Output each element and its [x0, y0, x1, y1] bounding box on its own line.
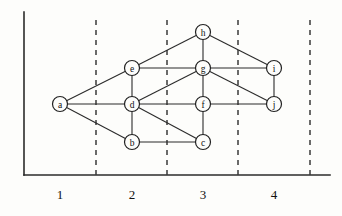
graph-node-label-e: e	[130, 64, 134, 74]
graph-node-e[interactable]: e	[125, 61, 140, 76]
graph-node-label-b: b	[130, 138, 135, 148]
graph-node-b[interactable]: b	[125, 135, 140, 150]
graph-node-d[interactable]: d	[125, 97, 140, 112]
graph-edges	[60, 32, 274, 142]
graph-node-i[interactable]: i	[267, 61, 282, 76]
graph-edge-d-c	[132, 104, 203, 142]
graph-node-a[interactable]: a	[53, 97, 68, 112]
x-tick-label-3: 3	[200, 187, 207, 202]
x-tick-label-2: 2	[129, 187, 136, 202]
graph-node-c[interactable]: c	[196, 135, 211, 150]
x-axis-tick-labels: 1234	[57, 187, 278, 202]
graph-node-j[interactable]: j	[267, 97, 282, 112]
graph-node-g[interactable]: g	[196, 61, 211, 76]
graph-node-f[interactable]: f	[196, 97, 211, 112]
graph-node-h[interactable]: h	[196, 25, 211, 40]
graph-node-label-c: c	[201, 138, 205, 148]
graph-canvas: abdecfghij 1234	[0, 0, 342, 216]
x-tick-label-4: 4	[271, 187, 278, 202]
graph-node-label-h: h	[201, 28, 206, 38]
graph-node-label-d: d	[130, 100, 135, 110]
graph-node-label-j: j	[272, 100, 276, 110]
graph-node-label-g: g	[201, 64, 206, 74]
graph-node-label-i: i	[273, 64, 276, 74]
axis-group	[24, 12, 330, 175]
x-tick-label-1: 1	[57, 187, 64, 202]
graph-figure: abdecfghij 1234	[0, 0, 342, 216]
graph-edge-a-b	[60, 104, 132, 142]
